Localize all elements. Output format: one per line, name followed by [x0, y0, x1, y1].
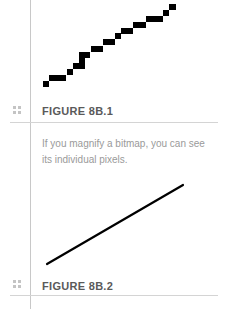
figure-divider: [10, 295, 218, 296]
vector-line-illustration: [0, 0, 234, 309]
grip-icon: [13, 280, 22, 289]
figure-label: FIGURE 8B.2: [42, 280, 113, 292]
